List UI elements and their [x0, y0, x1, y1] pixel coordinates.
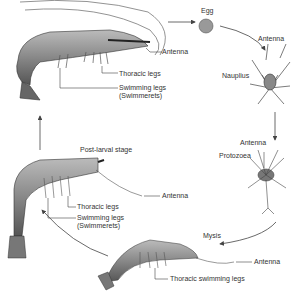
label-protozoea: Protozoea — [219, 152, 251, 160]
postlarval-illustration — [8, 158, 142, 258]
label-postlarval-swimmerets: (Swimmerets) — [77, 222, 120, 230]
label-adult-antenna: Antenna — [162, 48, 188, 56]
label-postlarval-swimming-legs: Swimming legs — [77, 214, 124, 222]
label-adult-swimmerets: (Swimmerets) — [119, 92, 162, 100]
label-postlarval-thoracic-legs: Thoracic legs — [77, 203, 119, 211]
label-adult-swimming-legs: Swimming legs — [119, 84, 166, 92]
label-protozoea-antenna: Antenna — [240, 139, 266, 147]
label-postlarval-antenna: Antenna — [162, 192, 188, 200]
label-nauplius: Nauplius — [222, 72, 249, 80]
label-postlarval-stage: Post-larval stage — [80, 146, 132, 154]
label-mysis: Mysis — [203, 232, 221, 240]
label-egg: Egg — [201, 7, 213, 15]
label-mysis-antenna: Antenna — [254, 258, 280, 266]
protozoea-illustration — [248, 150, 286, 214]
label-adult-thoracic-legs: Thoracic legs — [119, 70, 161, 78]
egg-illustration — [199, 19, 213, 33]
label-nauplius-antenna: Antenna — [258, 35, 284, 43]
label-mysis-thoracic-swimming-legs: Thoracic swimming legs — [170, 275, 245, 283]
arrow-protozoea-to-mysis — [220, 222, 276, 244]
nauplius-illustration — [250, 44, 290, 104]
